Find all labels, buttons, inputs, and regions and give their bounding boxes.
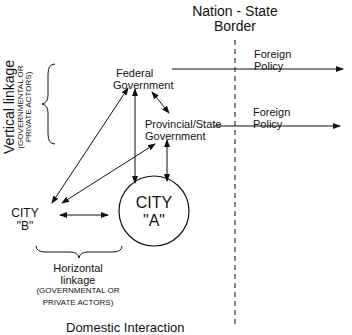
federal-provincial-arrow — [152, 92, 169, 113]
vertical-brace — [42, 64, 55, 144]
foreign-policy-label-1: Foreign Policy — [254, 48, 291, 72]
provincial-government-label: Provincial/State Government — [145, 118, 221, 142]
horizontal-linkage-label: Horizontal linkage (GOVERNMENTAL OR PRIV… — [28, 262, 128, 308]
vertical-linkage-label: Vertical linkage (GOVERNMENTAL OR PRIVAT… — [2, 42, 33, 172]
horizontal-brace — [36, 246, 122, 258]
city-a-label: CITY "A" — [124, 194, 184, 229]
footer-partial-label: Domestic Interaction — [66, 321, 185, 335]
federal-government-label: Federal Government — [113, 67, 174, 91]
foreign-policy-label-2: Foreign Policy — [253, 106, 290, 130]
city-b-label: CITY "B" — [8, 207, 42, 233]
border-label: Nation - State Border — [180, 4, 290, 35]
